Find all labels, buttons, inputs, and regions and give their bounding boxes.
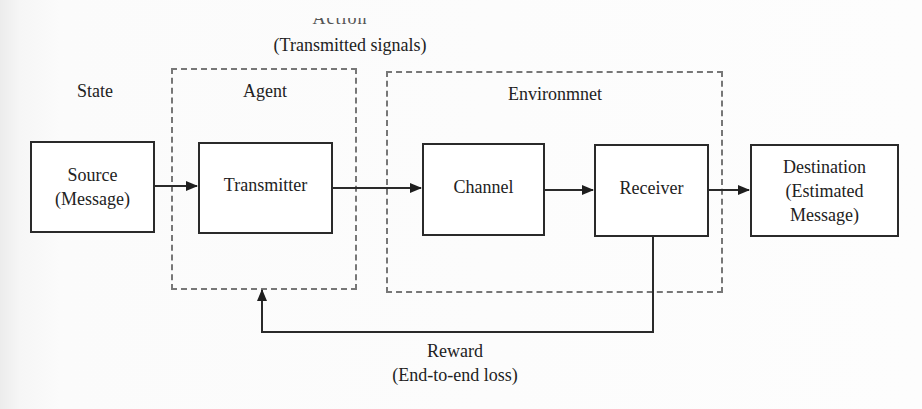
reward-label: Reward (380, 340, 530, 362)
end-to-end-loss-label: (End-to-end loss) (360, 364, 550, 386)
feedback-reward-arrow (262, 237, 653, 332)
